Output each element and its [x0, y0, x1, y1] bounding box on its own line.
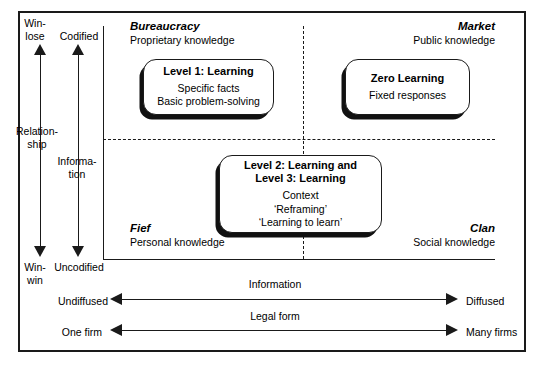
axis-name-relationship-line1: Relation-: [8, 126, 66, 138]
axis-name-legal-form: Legal form: [215, 311, 335, 323]
legal-form-axis-arrow: [110, 324, 458, 337]
axis-label-many-firms: Many firms: [466, 327, 517, 339]
quadrant-divider-horizontal: [103, 139, 495, 140]
box-zero-learning: Zero Learning Fixed responses: [345, 59, 470, 115]
arrow-shaft: [116, 299, 452, 300]
axis-label-win-lose-line1: Win-: [12, 18, 58, 30]
arrow-head-right-icon: [446, 324, 458, 336]
axis-label-win-win-line2: win: [12, 275, 58, 287]
quadrant-subtitle-market: Public knowledge: [330, 35, 495, 47]
quadrant-label-market: Market: [330, 20, 495, 33]
quadrant-subtitle-clan: Social knowledge: [330, 237, 495, 249]
arrow-shaft: [78, 50, 79, 251]
box-level-2-3-learning: Level 2: Learning and Level 3: Learning …: [219, 155, 382, 233]
axis-label-codified: Codified: [48, 31, 110, 43]
figure-canvas: Win- lose Win- win Relation- ship Codifi…: [0, 0, 544, 368]
axis-name-relationship-line2: ship: [8, 139, 66, 151]
axis-name-information-line1: Informa-: [46, 156, 108, 168]
box-level-1-learning: Level 1: Learning Specific facts Basic p…: [143, 59, 274, 115]
arrow-shaft: [116, 330, 452, 331]
box-zero-learning-body: Fixed responses: [369, 89, 446, 102]
axis-name-information-horizontal: Information: [215, 279, 335, 291]
box-level-2-3-heading: Level 2: Learning and Level 3: Learning: [244, 159, 357, 187]
axis-label-undiffused: Undiffused: [40, 296, 108, 308]
quadrant-subtitle-fief: Personal knowledge: [130, 237, 225, 249]
box-level-1-heading: Level 1: Learning: [163, 65, 253, 79]
matrix-x-axis: [103, 259, 495, 260]
quadrant-label-fief: Fief: [130, 222, 150, 235]
box-zero-learning-heading: Zero Learning: [371, 72, 444, 86]
arrow-head-down-icon: [72, 246, 84, 257]
arrow-head-down-icon: [34, 246, 46, 257]
information-axis-arrow: [110, 293, 458, 306]
axis-label-one-firm: One firm: [40, 327, 102, 339]
codification-axis-arrow: [72, 44, 85, 257]
box-level-2-3-body: Context ‘Reframing’ ‘Learning to learn’: [259, 189, 342, 229]
axis-name-information-line2: tion: [46, 169, 108, 181]
box-level-1-body: Specific facts Basic problem-solving: [157, 82, 260, 109]
quadrant-label-bureaucracy: Bureaucracy: [130, 20, 200, 33]
axis-label-diffused: Diffused: [466, 296, 504, 308]
arrow-head-right-icon: [446, 293, 458, 305]
quadrant-subtitle-bureaucracy: Proprietary knowledge: [130, 35, 234, 47]
axis-label-uncodified: Uncodified: [42, 262, 116, 274]
matrix-y-axis: [103, 26, 104, 260]
